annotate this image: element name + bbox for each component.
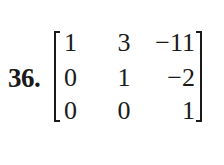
matrix-cell: 1 — [64, 28, 84, 58]
matrix-cell: 0 — [114, 96, 134, 126]
matrix-cell: 3 — [114, 28, 134, 58]
matrix-cell: 0 — [64, 63, 84, 93]
matrix-cell: 0 — [64, 96, 84, 126]
matrix-cell: 1 — [150, 96, 195, 126]
problem-number: 36. — [8, 63, 40, 93]
matrix-cell: −2 — [150, 63, 195, 93]
matrix-cell: −11 — [150, 28, 195, 58]
right-bracket — [196, 31, 202, 122]
matrix-cell: 1 — [114, 63, 134, 93]
left-bracket — [54, 31, 60, 122]
